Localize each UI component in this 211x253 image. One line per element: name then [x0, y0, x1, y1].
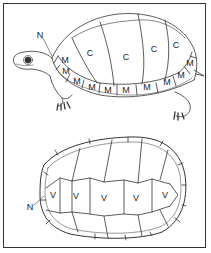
marginal-label: M	[186, 59, 194, 68]
marginal-label: M	[177, 71, 185, 80]
marginal-label: M	[73, 77, 81, 86]
vertebral-label: V	[73, 192, 79, 201]
vertebral-label: V	[133, 194, 139, 203]
turtle-diagram	[0, 0, 211, 253]
nuchal-label: N	[37, 31, 44, 40]
marginal-label: M	[61, 56, 69, 65]
costal-label: C	[87, 49, 94, 58]
marginal-label: M	[143, 83, 151, 92]
costal-label: C	[173, 41, 180, 50]
marginal-label: M	[62, 67, 70, 76]
costal-label: C	[151, 45, 158, 54]
vertebral-label: V	[50, 191, 56, 200]
costal-label: C	[123, 53, 130, 62]
vertebral-label: V	[162, 191, 168, 200]
marginal-label: M	[104, 86, 112, 95]
marginal-label: M	[122, 86, 130, 95]
nuchal-label: N	[27, 203, 34, 212]
dorsal-carapace	[34, 137, 186, 240]
marginal-label: M	[163, 78, 171, 87]
vertebral-label: V	[101, 194, 107, 203]
marginal-label: M	[88, 83, 96, 92]
